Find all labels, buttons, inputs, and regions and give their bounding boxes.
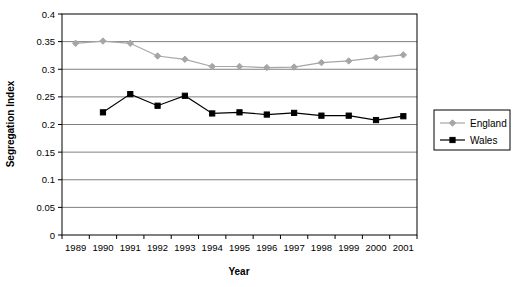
series-line-wales xyxy=(103,94,403,120)
x-axis-tick-label: 1995 xyxy=(229,242,250,253)
data-point-wales xyxy=(210,111,215,116)
x-axis-title: Year xyxy=(228,266,249,277)
y-axis-tick-label: 0.15 xyxy=(37,147,56,158)
data-point-wales xyxy=(237,110,242,115)
data-point-england xyxy=(154,53,160,59)
y-axis-tick-label: 0.2 xyxy=(42,119,55,130)
data-point-wales xyxy=(155,103,160,108)
y-axis-tick-label: 0 xyxy=(50,230,55,241)
data-point-england xyxy=(400,52,406,58)
data-point-england xyxy=(318,59,324,65)
data-point-england xyxy=(236,63,242,69)
data-point-wales xyxy=(373,117,378,122)
legend-marker-wales xyxy=(450,137,455,142)
data-point-wales xyxy=(100,110,105,115)
x-axis-tick-label: 1997 xyxy=(284,242,305,253)
data-point-england xyxy=(182,56,188,62)
y-axis-tick-label: 0.35 xyxy=(37,36,56,47)
data-point-england xyxy=(100,38,106,44)
legend-label-wales: Wales xyxy=(470,135,497,146)
x-axis-tick-labels: 1989199019911992199319941995199619971998… xyxy=(65,242,414,253)
x-axis-tick-label: 2001 xyxy=(393,242,414,253)
chart-container: 00.050.10.150.20.250.30.350.4 1989199019… xyxy=(0,0,520,287)
y-axis-ticks xyxy=(58,14,62,235)
segregation-index-line-chart: 00.050.10.150.20.250.30.350.4 1989199019… xyxy=(0,0,520,287)
x-axis-tick-label: 1999 xyxy=(338,242,359,253)
data-point-england xyxy=(346,58,352,64)
data-point-england xyxy=(72,40,78,46)
x-axis-tick-label: 1993 xyxy=(174,242,195,253)
x-axis-tick-label: 1998 xyxy=(311,242,332,253)
data-point-wales xyxy=(346,113,351,118)
data-point-england xyxy=(209,63,215,69)
y-axis-tick-labels: 00.050.10.150.20.250.30.350.4 xyxy=(37,9,56,241)
data-point-wales xyxy=(264,112,269,117)
data-series-layer xyxy=(72,38,406,123)
y-axis-tick-label: 0.25 xyxy=(37,91,56,102)
y-axis-tick-label: 0.05 xyxy=(37,202,56,213)
data-point-england xyxy=(264,64,270,70)
data-point-wales xyxy=(319,113,324,118)
legend-label-england: England xyxy=(470,118,507,129)
data-point-wales xyxy=(292,110,297,115)
series-england xyxy=(72,38,406,71)
x-axis-tick-label: 1990 xyxy=(92,242,113,253)
y-axis-title: Segregation Index xyxy=(5,80,16,167)
x-axis-tick-label: 1989 xyxy=(65,242,86,253)
x-axis-ticks xyxy=(62,235,417,239)
y-axis-tick-label: 0.3 xyxy=(42,64,55,75)
data-point-wales xyxy=(128,92,133,97)
x-axis-tick-label: 2000 xyxy=(365,242,386,253)
y-axis-tick-label: 0.1 xyxy=(42,174,55,185)
data-point-england xyxy=(373,54,379,60)
data-point-wales xyxy=(182,93,187,98)
legend: EnglandWales xyxy=(434,110,510,150)
x-axis-tick-label: 1991 xyxy=(120,242,141,253)
data-point-wales xyxy=(401,114,406,119)
legend-symbol-wales xyxy=(450,137,455,142)
x-axis-tick-label: 1996 xyxy=(256,242,277,253)
data-point-england xyxy=(127,40,133,46)
x-axis-tick-label: 1994 xyxy=(202,242,223,253)
y-axis-tick-label: 0.4 xyxy=(42,9,55,20)
series-wales xyxy=(100,92,406,123)
x-axis-tick-label: 1992 xyxy=(147,242,168,253)
